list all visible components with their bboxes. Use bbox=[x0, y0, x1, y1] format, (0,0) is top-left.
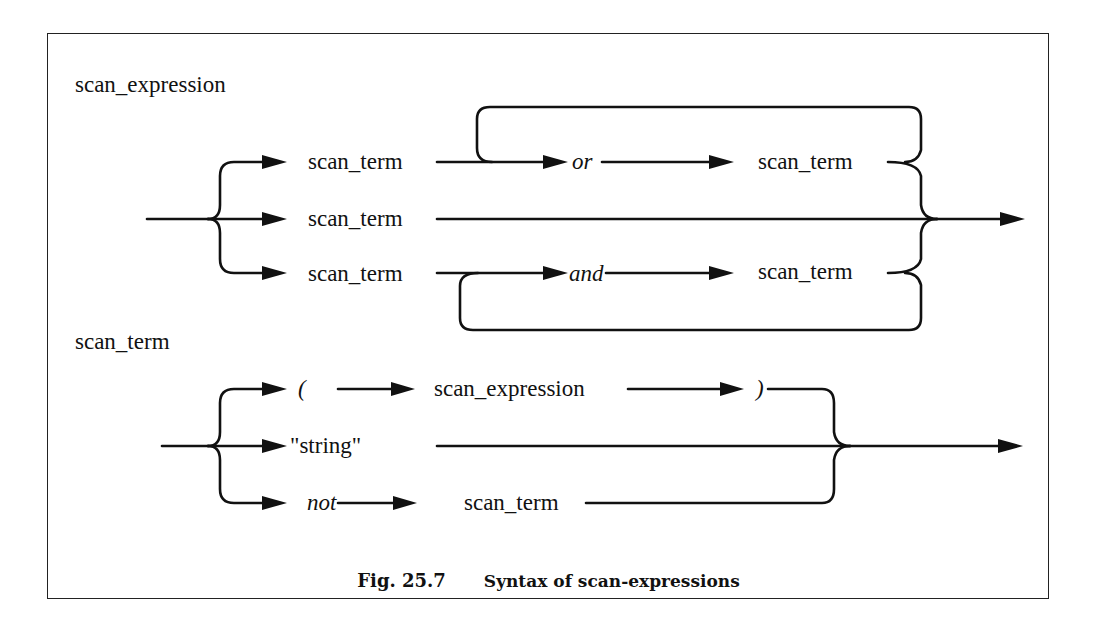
scan-expression-title: scan_expression bbox=[75, 73, 226, 96]
figure-caption-text: Syntax of scan-expressions bbox=[484, 571, 740, 591]
expr-row3-and: and bbox=[569, 262, 604, 285]
figure-caption: Fig. 25.7Syntax of scan-expressions bbox=[0, 570, 1097, 591]
figure-number: Fig. 25.7 bbox=[357, 570, 446, 591]
term-row3-scan-term: scan_term bbox=[464, 491, 559, 514]
expr-row2-term: scan_term bbox=[308, 207, 403, 230]
expr-row1-or: or bbox=[572, 150, 592, 173]
term-row1-close-paren: ) bbox=[756, 377, 764, 400]
scan-term-title: scan_term bbox=[75, 330, 170, 353]
expr-row3-term2: scan_term bbox=[758, 260, 853, 283]
term-row2-string: "string" bbox=[290, 434, 361, 457]
term-row1-scan-expression: scan_expression bbox=[434, 377, 585, 400]
scan-term-paths bbox=[162, 389, 1008, 503]
expr-row1-term1: scan_term bbox=[308, 150, 403, 173]
expr-row1-term2: scan_term bbox=[758, 150, 853, 173]
term-row1-open-paren: ( bbox=[298, 377, 306, 400]
term-row3-not: not bbox=[307, 491, 336, 514]
expr-row3-term1: scan_term bbox=[308, 262, 403, 285]
